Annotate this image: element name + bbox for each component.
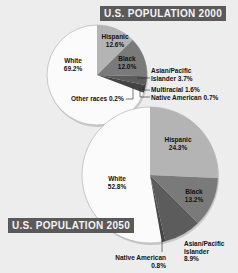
label-2000-other: Other races 0.2%	[71, 95, 124, 103]
label-2000-hispanic: Hispanic 12.6%	[97, 33, 133, 48]
label-2050-white: White 52.8%	[102, 175, 132, 190]
label-2050-asian: Asian/Pacific Islander 8.9%	[184, 240, 224, 263]
title-2050: U.S. POPULATION 2050	[8, 218, 134, 233]
label-2050-hispanic: Hispanic 24.3%	[160, 136, 196, 151]
label-2000-native: Native American 0.7%	[151, 94, 218, 102]
label-2000-black: Black 12.0%	[110, 55, 144, 70]
label-2000-white: White 69.2%	[58, 57, 88, 72]
label-2000-asian: Asian/Pacific Islander 3.7%	[151, 67, 193, 82]
label-2050-black: Black 13.2%	[180, 188, 208, 203]
label-2000-multiracial: Multiracial 1.6%	[151, 86, 200, 94]
label-2050-native: Native American 0.8%	[108, 254, 166, 269]
title-2000: U.S. POPULATION 2000	[100, 6, 226, 21]
